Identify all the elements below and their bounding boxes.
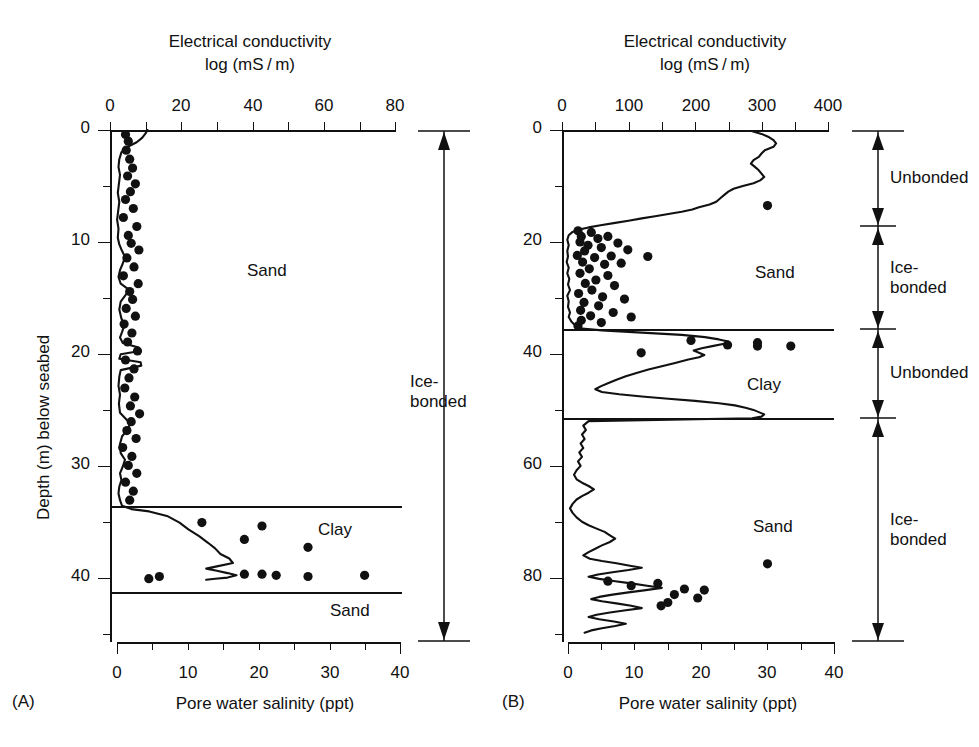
salinity-point (257, 521, 266, 530)
salinity-point (700, 586, 709, 595)
salinity-point (121, 195, 130, 204)
salinity-point (590, 253, 599, 262)
conductivity-curve (567, 131, 776, 633)
salinity-point (132, 222, 141, 231)
salinity-point (763, 559, 772, 568)
panel-a-bond-label-ice-bonded: Ice- bonded (410, 372, 467, 412)
salinity-point (637, 348, 646, 357)
conductivity-curve (117, 130, 236, 580)
salinity-point (603, 271, 612, 280)
salinity-point (131, 179, 140, 188)
panel-b-bond-label-unbonded-2: Unbonded (890, 363, 968, 383)
salinity-point (122, 304, 131, 313)
salinity-point (686, 336, 695, 345)
salinity-point (123, 337, 132, 346)
salinity-point (122, 426, 131, 435)
salinity-point (657, 601, 666, 610)
salinity-point (134, 279, 143, 288)
salinity-point (119, 213, 128, 222)
salinity-point (129, 364, 138, 373)
salinity-point (129, 204, 138, 213)
salinity-point (240, 570, 249, 579)
salinity-point (126, 187, 135, 196)
salinity-point (132, 469, 141, 478)
salinity-point (130, 392, 139, 401)
salinity-point (134, 245, 143, 254)
salinity-point (125, 496, 134, 505)
salinity-point (125, 155, 134, 164)
salinity-point (155, 572, 164, 581)
panel-b: Electrical conductivity log (mS / m) 0 1… (490, 0, 979, 747)
salinity-point (579, 298, 588, 307)
salinity-point (144, 574, 153, 583)
salinity-point (121, 355, 130, 364)
salinity-point (643, 252, 652, 261)
salinity-point (131, 312, 140, 321)
salinity-point (126, 401, 135, 410)
salinity-point (128, 164, 137, 173)
salinity-point (132, 434, 141, 443)
salinity-point (360, 571, 369, 580)
salinity-point (576, 306, 585, 315)
salinity-point (763, 201, 772, 210)
salinity-point (591, 275, 600, 284)
salinity-point (135, 409, 144, 418)
salinity-point (124, 231, 133, 240)
salinity-point (594, 301, 603, 310)
salinity-point (627, 312, 636, 321)
salinity-point (593, 234, 602, 243)
salinity-point (607, 251, 616, 260)
salinity-point (575, 269, 584, 278)
salinity-point (620, 295, 629, 304)
salinity-point (303, 543, 312, 552)
salinity-point (119, 271, 128, 280)
salinity-point (609, 308, 618, 317)
salinity-point (575, 237, 584, 246)
salinity-point (303, 572, 312, 581)
salinity-point (586, 311, 595, 320)
salinity-point (127, 328, 136, 337)
salinity-point (573, 321, 582, 330)
salinity-point (670, 590, 679, 599)
salinity-point (120, 320, 129, 329)
salinity-point (693, 593, 702, 602)
salinity-point (240, 535, 249, 544)
salinity-point (627, 581, 636, 590)
salinity-point (598, 292, 607, 301)
salinity-point (587, 286, 596, 295)
salinity-point (600, 260, 609, 269)
salinity-point (613, 239, 622, 248)
salinity-point (122, 253, 131, 262)
salinity-point (124, 461, 133, 470)
salinity-point (617, 259, 626, 268)
salinity-point (574, 289, 583, 298)
salinity-point (603, 577, 612, 586)
salinity-point (129, 262, 138, 271)
salinity-point (786, 342, 795, 351)
salinity-point (122, 146, 131, 155)
salinity-point (128, 295, 137, 304)
salinity-point (127, 417, 136, 426)
panel-a: Electrical conductivity log (mS / m) Dep… (0, 0, 490, 747)
salinity-point (133, 346, 142, 355)
salinity-point (118, 443, 127, 452)
salinity-point (623, 245, 632, 254)
salinity-point (123, 171, 132, 180)
panel-b-bond-label-ice-bonded-1: Ice- bonded (890, 258, 947, 298)
salinity-point (197, 518, 206, 527)
salinity-point (121, 478, 130, 487)
salinity-point (597, 318, 606, 327)
salinity-point (129, 487, 138, 496)
panel-b-bond-label-ice-bonded-2: Ice- bonded (890, 510, 947, 550)
salinity-point (753, 342, 762, 351)
salinity-point (124, 137, 133, 146)
salinity-point (585, 264, 594, 273)
salinity-point (120, 383, 129, 392)
salinity-point (597, 243, 606, 252)
salinity-point (581, 279, 590, 288)
salinity-point (603, 232, 612, 241)
salinity-point (723, 340, 732, 349)
salinity-point (272, 571, 281, 580)
panel-b-bond-label-unbonded-1: Unbonded (890, 168, 968, 188)
salinity-point (127, 239, 136, 248)
